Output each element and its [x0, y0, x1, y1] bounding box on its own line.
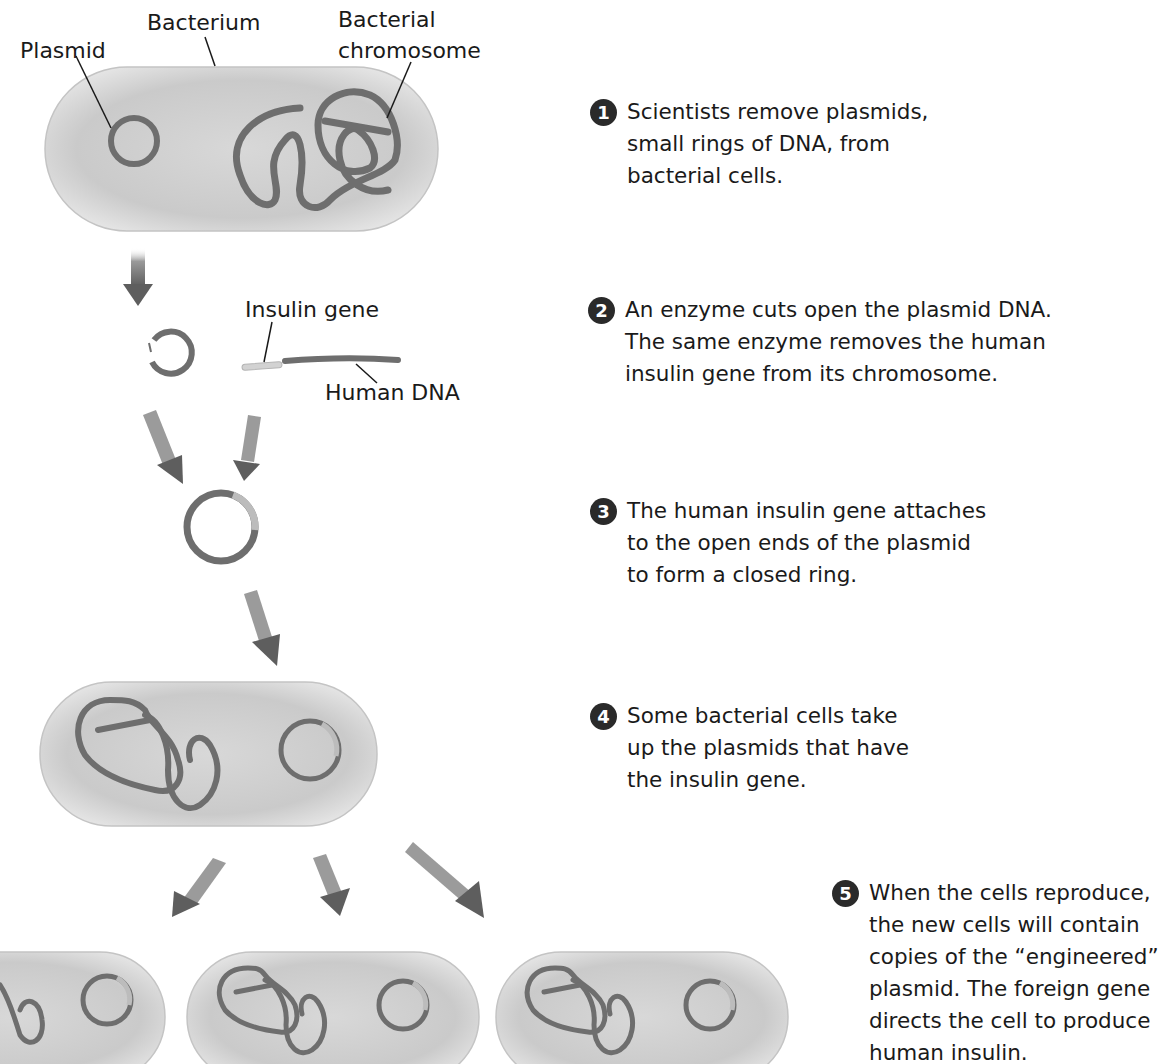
arrow-to-daughter-2 [313, 854, 350, 916]
step-3-line-1: The human insulin gene attaches [627, 495, 986, 527]
arrow-to-daughter-1 [172, 858, 226, 917]
step-3-line-2: to the open ends of the plasmid [627, 527, 986, 559]
step-1-line-3: bacterial cells. [627, 160, 928, 192]
step-1: 1 Scientists remove plasmids, small ring… [627, 96, 928, 192]
bacterium-daughter-1 [0, 952, 165, 1064]
label-bacterial-chromosome-line1: Bacterial [338, 7, 436, 33]
step-5-number-badge: 5 [832, 880, 859, 907]
arrow-step1-to-step2 [123, 248, 153, 306]
step-5-line-1: When the cells reproduce, [869, 877, 1159, 909]
label-insulin-gene: Insulin gene [245, 297, 379, 323]
step-5-line-6: human insulin. [869, 1037, 1159, 1064]
label-bacterial-chromosome-line2: chromosome [338, 38, 481, 64]
label-human-dna: Human DNA [325, 380, 460, 406]
step-2: 2 An enzyme cuts open the plasmid DNA. T… [625, 294, 1052, 390]
arrow-to-daughter-3 [405, 842, 484, 918]
step-4-number-badge: 4 [590, 703, 617, 730]
arrow-gene-to-recombinant [233, 415, 261, 481]
step-4: 4 Some bacterial cells take up the plasm… [627, 700, 909, 796]
arrow-plasmid-to-recombinant [143, 410, 183, 484]
step-2-line-1: An enzyme cuts open the plasmid DNA. [625, 294, 1052, 326]
step-2-number-badge: 2 [588, 297, 615, 324]
step-3: 3 The human insulin gene attaches to the… [627, 495, 986, 591]
step-3-line-3: to form a closed ring. [627, 559, 986, 591]
human-dna-strand [242, 358, 398, 370]
step-5-line-4: plasmid. The foreign gene [869, 973, 1159, 1005]
step-4-line-2: up the plasmids that have [627, 732, 909, 764]
step-1-line-1: Scientists remove plasmids, [627, 96, 928, 128]
step-1-line-2: small rings of DNA, from [627, 128, 928, 160]
arrow-step3-to-step4 [244, 590, 280, 666]
step-4-line-3: the insulin gene. [627, 764, 909, 796]
bacterium-original [45, 67, 438, 231]
step-5-line-3: copies of the “engineered” [869, 941, 1159, 973]
cut-plasmid [152, 332, 192, 374]
step-1-number-badge: 1 [590, 99, 617, 126]
step-5-line-5: directs the cell to produce [869, 1005, 1159, 1037]
recombinant-plasmid [187, 493, 255, 561]
bacterium-daughter-3 [496, 952, 788, 1064]
step-3-number-badge: 3 [590, 498, 617, 525]
step-5: 5 When the cells reproduce, the new cell… [869, 877, 1159, 1064]
bacterium-transformed [40, 682, 377, 826]
step-5-line-2: the new cells will contain [869, 909, 1159, 941]
label-bacterium: Bacterium [147, 10, 260, 36]
step-2-line-3: insulin gene from its chromosome. [625, 358, 1052, 390]
step-4-line-1: Some bacterial cells take [627, 700, 909, 732]
bacterium-daughter-2 [187, 952, 479, 1064]
step-2-line-2: The same enzyme removes the human [625, 326, 1052, 358]
label-plasmid: Plasmid [20, 38, 106, 64]
